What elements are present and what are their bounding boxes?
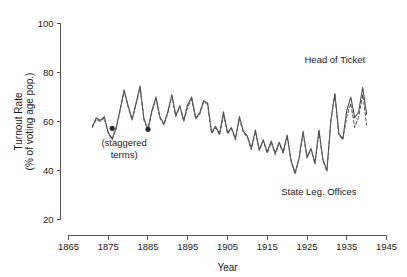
- x-tick-label: 1905: [217, 241, 238, 252]
- chart-annotations: Head of TicketState Leg. Offices(stagger…: [101, 54, 365, 197]
- state-leg-offices-label: State Leg. Offices: [281, 186, 357, 197]
- y-tick-label: 40: [43, 165, 54, 176]
- staggered-terms-label-line1: (staggered: [101, 137, 146, 148]
- x-tick-label: 1885: [137, 241, 158, 252]
- y-tick-label: 100: [38, 18, 54, 29]
- x-tick-label: 1915: [257, 241, 278, 252]
- y-tick-label: 20: [43, 214, 54, 225]
- x-axis-title: Year: [217, 262, 238, 273]
- staggered-term-marker-2: [145, 127, 150, 132]
- x-tick-label: 1865: [58, 241, 79, 252]
- x-tick-label: 1925: [296, 241, 317, 252]
- data-series: [92, 86, 366, 174]
- y-tick-label: 80: [43, 67, 54, 78]
- staggered-terms-label-line2: terms): [111, 149, 138, 160]
- head-of-ticket-label: Head of Ticket: [304, 54, 365, 65]
- x-tick-label: 1895: [177, 241, 198, 252]
- y-tick-label: 60: [43, 116, 54, 127]
- chart-canvas: 2040608010018651875188518951905191519251…: [0, 0, 407, 277]
- y-axis-title-line2: (% of voting age pop.): [24, 73, 35, 171]
- x-tick-label: 1945: [376, 241, 397, 252]
- x-tick-label: 1935: [336, 241, 357, 252]
- y-axis-title-line1: Turnout Rate: [13, 92, 24, 150]
- x-tick-label: 1875: [98, 241, 119, 252]
- staggered-term-marker-1: [110, 126, 115, 131]
- turnout-rate-chart: 2040608010018651875188518951905191519251…: [0, 0, 407, 277]
- series-line-state-leg-offices: [92, 87, 366, 174]
